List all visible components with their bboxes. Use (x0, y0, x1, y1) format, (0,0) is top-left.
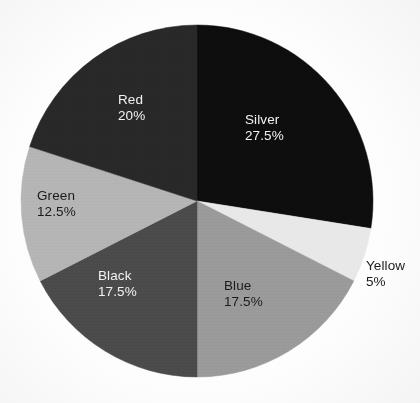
pie-chart-svg (0, 0, 420, 403)
pie-slice-group (21, 25, 373, 377)
pie-chart-figure: Silver 27.5% Yellow 5% Blue 17.5% Black … (0, 0, 420, 403)
pie-slice-silver (197, 25, 373, 229)
